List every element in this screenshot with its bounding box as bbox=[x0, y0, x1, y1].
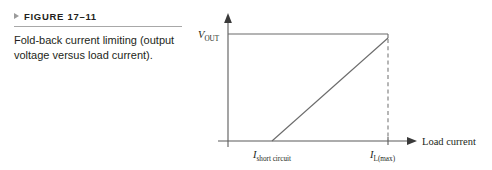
x-tick-short-circuit-subscript: short circuit bbox=[257, 155, 292, 163]
x-tick-label-il-max: IL(max) bbox=[369, 149, 396, 163]
x-axis-arrowhead bbox=[407, 137, 417, 145]
y-axis-label-subscript: OUT bbox=[204, 35, 219, 43]
header-divider bbox=[14, 26, 182, 27]
x-tick-il-max-subscript: L(max) bbox=[374, 155, 396, 163]
y-axis bbox=[224, 13, 232, 147]
figure-caption-block: FIGURE 17–11 Fold-back current limiting … bbox=[14, 10, 182, 63]
figure-page: FIGURE 17–11 Fold-back current limiting … bbox=[0, 0, 492, 170]
foldback-current-limiting-chart: VOUT Load current Ishort circuit IL(max) bbox=[190, 0, 492, 170]
y-axis-arrowhead bbox=[224, 13, 232, 23]
figure-header: FIGURE 17–11 bbox=[14, 10, 182, 22]
triangle-right-icon bbox=[14, 13, 19, 19]
x-tick-label-short-circuit: Ishort circuit bbox=[252, 149, 291, 163]
y-axis-label: VOUT bbox=[198, 29, 220, 43]
x-axis-label: Load current bbox=[422, 136, 476, 147]
figure-number-label: FIGURE 17–11 bbox=[24, 11, 97, 22]
x-axis bbox=[218, 137, 417, 145]
chart-container: VOUT Load current Ishort circuit IL(max) bbox=[190, 0, 492, 170]
foldback-ramp-line bbox=[272, 38, 388, 141]
figure-caption-text: Fold-back current limiting (output volta… bbox=[14, 33, 182, 63]
